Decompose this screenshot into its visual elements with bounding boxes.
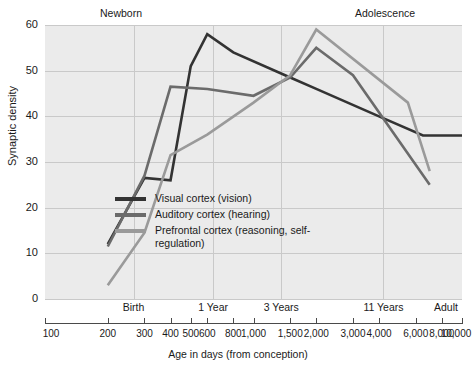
y-tick-label-30: 30 (0, 156, 38, 167)
x-tick-label-100: 100 (43, 328, 60, 339)
x-tick-label-10000: 10,000 (441, 328, 472, 339)
x-tick-4000 (379, 318, 380, 324)
x-tick-300 (144, 318, 145, 324)
x-tick-label-6000: 6,000 (403, 328, 428, 339)
x-tick-label-1500: 1,500 (278, 328, 303, 339)
y-tick-label-60: 60 (0, 19, 38, 30)
legend-swatch-icon-0 (115, 197, 146, 201)
x-tick-10000 (462, 318, 463, 324)
chart-figure: Newborn Adolescence Synaptic density 010… (0, 0, 476, 368)
stage-label-1-year: 1 Year (198, 301, 228, 313)
x-tick-label-1000: 1,000 (241, 328, 266, 339)
x-tick-label-800: 800 (225, 328, 242, 339)
stage-label-11-years: 11 Years (363, 301, 403, 313)
x-tick-label-300: 300 (136, 328, 153, 339)
x-tick-3000 (353, 318, 354, 324)
x-tick-label-4000: 4,000 (367, 328, 392, 339)
x-tick-500 (191, 318, 192, 324)
annotation-adolescence: Adolescence (355, 7, 415, 19)
x-tick-1500 (290, 318, 291, 324)
x-tick-100 (45, 318, 46, 324)
x-tick-8000 (442, 318, 443, 324)
x-axis-title: Age in days (from conception) (0, 348, 476, 360)
x-tick-label-200: 200 (99, 328, 116, 339)
x-tick-label-400: 400 (162, 328, 179, 339)
legend-swatch-icon-2 (115, 229, 146, 233)
gridline-y-0 (45, 299, 462, 300)
x-tick-label-600: 600 (199, 328, 216, 339)
x-tick-label-3000: 3,000 (340, 328, 365, 339)
legend-item-1: Auditory cortex (hearing) (115, 208, 345, 221)
annotation-newborn: Newborn (100, 7, 142, 19)
data-lines (45, 25, 462, 299)
y-tick-label-50: 50 (0, 65, 38, 76)
x-tick-label-500: 500 (182, 328, 199, 339)
x-tick-2000 (316, 318, 317, 324)
chart-legend: Visual cortex (vision)Auditory cortex (h… (115, 192, 345, 253)
y-tick-label-10: 10 (0, 247, 38, 258)
x-tick-400 (171, 318, 172, 324)
plot-area (45, 25, 462, 299)
legend-item-2: Prefrontal cortex (reasoning, self-regul… (115, 224, 345, 250)
x-tick-200 (108, 318, 109, 324)
stage-label-3-years: 3 Years (264, 301, 299, 313)
stage-label-adult: Adult (434, 301, 458, 313)
legend-swatch-icon-1 (115, 213, 146, 217)
x-tick-1000 (254, 318, 255, 324)
y-tick-label-0: 0 (0, 293, 38, 304)
y-tick-label-40: 40 (0, 110, 38, 121)
legend-label-0: Visual cortex (vision) (155, 192, 252, 205)
y-tick-label-20: 20 (0, 202, 38, 213)
legend-label-1: Auditory cortex (hearing) (155, 208, 270, 221)
x-tick-6000 (416, 318, 417, 324)
x-tick-800 (233, 318, 234, 324)
legend-item-0: Visual cortex (vision) (115, 192, 345, 205)
stage-label-birth: Birth (123, 301, 145, 313)
x-tick-600 (207, 318, 208, 324)
x-tick-label-2000: 2,000 (304, 328, 329, 339)
legend-label-2: Prefrontal cortex (reasoning, self-regul… (155, 224, 345, 250)
